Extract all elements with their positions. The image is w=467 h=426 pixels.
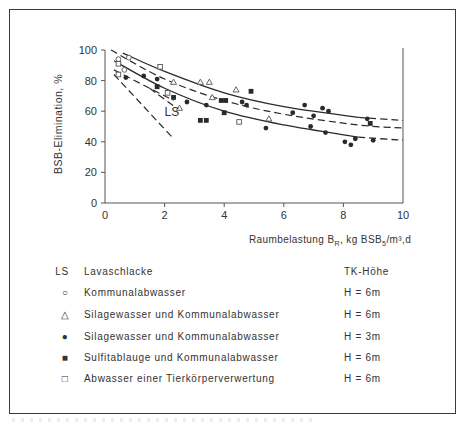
filled-circle-marker xyxy=(240,100,245,105)
open-square-marker xyxy=(158,65,163,70)
filled-circle-icon: ● xyxy=(55,331,75,342)
filled-circle-marker xyxy=(326,109,331,114)
filled-circle-marker xyxy=(365,116,370,121)
legend-label: Lavaschlacke xyxy=(84,266,153,277)
y-tick-label: 20 xyxy=(85,166,97,178)
y-tick-label: 60 xyxy=(85,105,97,117)
x-tick-label: 8 xyxy=(340,209,346,221)
x-axis-label-text: /m³,d xyxy=(386,234,411,245)
open-circle-marker xyxy=(122,67,127,72)
x-tick-label: 2 xyxy=(162,209,168,221)
filled-circle-marker xyxy=(185,100,190,105)
y-tick-label: 0 xyxy=(91,197,97,209)
legend-label: Abwasser einer Tierkörperverwertung xyxy=(84,373,275,384)
filled-circle-marker xyxy=(311,113,316,118)
legend-label: Kommunalabwasser xyxy=(84,287,186,298)
open-triangle-marker xyxy=(206,79,212,84)
trend-curves xyxy=(111,50,403,140)
open-circle-marker xyxy=(116,57,121,62)
open-circle-icon: ○ xyxy=(55,287,75,298)
filled-square-marker xyxy=(222,110,227,115)
open-square-marker xyxy=(116,72,121,77)
legend-symbol-ls: LS xyxy=(52,266,72,277)
x-tick-label: 10 xyxy=(397,209,409,221)
open-square-marker xyxy=(237,120,242,125)
open-circle-marker xyxy=(126,55,131,60)
legend-height: H = 3m xyxy=(344,331,381,342)
x-tick-label: 4 xyxy=(221,209,227,221)
filled-circle-marker xyxy=(323,130,328,135)
trend-curve-dashed xyxy=(358,137,403,140)
open-square-icon: □ xyxy=(55,373,75,384)
filled-circle-marker xyxy=(348,142,353,147)
x-axis-label-text: , kg BSB xyxy=(340,234,382,245)
scan-artifact xyxy=(12,418,312,422)
x-axis-label: Raumbelastung BR, kg BSB5/m³,d xyxy=(249,234,411,247)
open-triangle-marker xyxy=(197,79,203,84)
filled-square-marker xyxy=(204,118,209,123)
filled-circle-marker xyxy=(264,126,269,131)
filled-square-icon: ■ xyxy=(55,352,75,363)
open-triangle-icon: △ xyxy=(55,309,75,320)
legend-label: Silagewasser und Kommunalabwasser xyxy=(84,331,279,342)
x-axis-label-text: Raumbelastung B xyxy=(249,234,335,245)
filled-circle-marker xyxy=(123,75,128,80)
legend-height-column-header: TK-Höhe xyxy=(344,266,389,277)
legend-height: H = 6m xyxy=(344,287,381,298)
filled-circle-marker xyxy=(308,124,313,129)
open-square-marker xyxy=(165,91,170,96)
annotations: LS xyxy=(165,105,180,119)
filled-circle-marker xyxy=(371,138,376,143)
y-tick-label: 40 xyxy=(85,136,97,148)
filled-circle-marker xyxy=(302,103,307,108)
filled-circle-marker xyxy=(342,139,347,144)
x-tick-label: 6 xyxy=(281,209,287,221)
filled-square-marker xyxy=(219,98,224,103)
filled-circle-marker xyxy=(244,103,249,108)
open-square-marker xyxy=(116,61,121,66)
legend-height: H = 6m xyxy=(344,373,381,384)
x-tick-label: 0 xyxy=(102,209,108,221)
filled-square-marker xyxy=(155,84,160,89)
axes: 0204060801000246810 xyxy=(79,44,409,221)
filled-circle-marker xyxy=(353,136,358,141)
filled-circle-marker xyxy=(155,77,160,82)
legend-label: Sulfitablauge und Kommunalabwasser xyxy=(84,352,278,363)
filled-square-marker xyxy=(368,121,373,126)
filled-square-marker xyxy=(223,98,228,103)
filled-circle-marker xyxy=(290,110,295,115)
y-tick-label: 80 xyxy=(85,75,97,87)
open-triangle-marker xyxy=(266,116,272,121)
filled-circle-marker xyxy=(204,103,209,108)
filled-square-marker xyxy=(249,89,254,94)
open-triangle-marker xyxy=(233,87,239,92)
legend-height: H = 6m xyxy=(344,309,381,320)
ls-annotation: LS xyxy=(165,105,180,119)
filled-circle-marker xyxy=(320,106,325,111)
legend-height: H = 6m xyxy=(344,352,381,363)
filled-square-marker xyxy=(198,118,203,123)
y-axis-label: BSB-Elimination, % xyxy=(52,74,64,174)
filled-circle-marker xyxy=(141,74,146,79)
y-tick-label: 100 xyxy=(79,44,97,56)
filled-square-marker xyxy=(171,95,176,100)
legend-label: Silagewasser und Kommunalabwasser xyxy=(84,309,279,320)
